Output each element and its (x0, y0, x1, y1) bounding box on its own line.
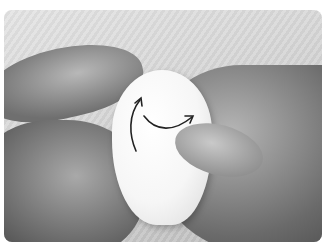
curved-arrow-right (144, 116, 192, 128)
curved-arrow-up (131, 100, 140, 151)
photo (4, 10, 322, 242)
arrows (4, 10, 322, 242)
